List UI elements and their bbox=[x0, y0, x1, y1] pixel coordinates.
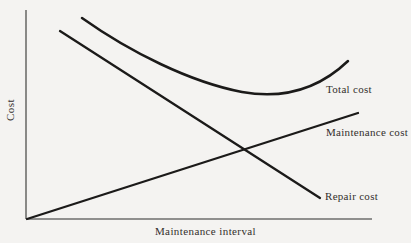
series-label-total-cost: Total cost bbox=[326, 83, 372, 95]
chart-plot-area bbox=[0, 0, 411, 243]
series-line-maintenance-cost bbox=[27, 113, 358, 219]
chart-figure: Total cost Maintenance cost Repair cost … bbox=[0, 0, 411, 243]
x-axis-title: Maintenance interval bbox=[0, 225, 411, 237]
series-label-maintenance-cost: Maintenance cost bbox=[326, 126, 408, 138]
series-line-repair-cost bbox=[60, 31, 320, 198]
y-axis-title: Cost bbox=[4, 88, 16, 132]
series-line-total-cost bbox=[82, 18, 348, 94]
series-label-repair-cost: Repair cost bbox=[325, 190, 378, 202]
